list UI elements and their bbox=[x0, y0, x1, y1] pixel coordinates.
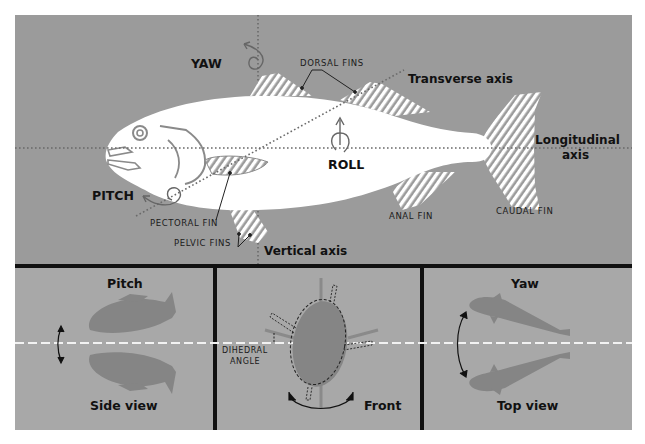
fish-axes-diagram: YAW DORSAL FINS Transverse axis Longitud… bbox=[0, 0, 645, 444]
pitch-label: PITCH bbox=[92, 188, 134, 203]
panel-divider-left bbox=[213, 268, 217, 430]
panel-divider-right bbox=[420, 268, 424, 430]
longitudinal-axis-label-line1: Longitudinal bbox=[535, 133, 620, 147]
pectoral-fin-label: PECTORAL FIN bbox=[150, 218, 218, 228]
roll-label: ROLL bbox=[328, 157, 364, 172]
top-view-caption: Top view bbox=[497, 398, 558, 413]
transverse-axis-label: Transverse axis bbox=[408, 72, 513, 86]
dihedral-angle-label-line1: DIHEDRAL bbox=[222, 346, 268, 355]
caudal-fin-label: CAUDAL FIN bbox=[496, 206, 553, 216]
side-view-caption: Side view bbox=[90, 398, 158, 413]
section-divider bbox=[15, 264, 632, 268]
yaw-panel-title: Yaw bbox=[511, 276, 539, 291]
vertical-axis-label: Vertical axis bbox=[264, 244, 347, 258]
longitudinal-axis-label-line2: axis bbox=[562, 148, 589, 162]
dorsal-fins-label: DORSAL FINS bbox=[300, 58, 364, 68]
pelvic-fins-label: PELVIC FINS bbox=[174, 238, 231, 248]
dihedral-angle-label-line2: ANGLE bbox=[230, 357, 260, 366]
anal-fin-label: ANAL FIN bbox=[389, 211, 433, 221]
pitch-panel-title: Pitch bbox=[107, 276, 143, 291]
front-view-caption: Front bbox=[364, 398, 401, 413]
yaw-label: YAW bbox=[191, 56, 222, 71]
